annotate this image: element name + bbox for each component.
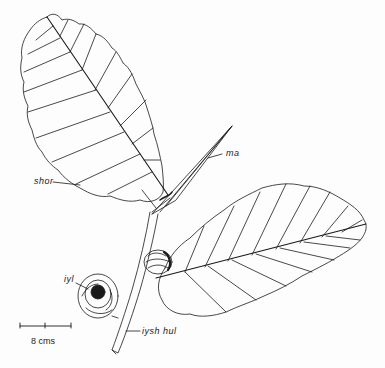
label-shor: shor — [34, 176, 54, 186]
label-ma: ma — [226, 148, 240, 158]
leader-shor — [53, 182, 80, 185]
scale-bar-label: 8 cms — [31, 336, 55, 346]
upper-leaf — [21, 14, 168, 201]
botanical-illustration: ma shor iyl iysh hul 8 cms — [0, 0, 385, 368]
acorn-cup — [78, 274, 118, 318]
lower-leaf — [156, 184, 366, 316]
leader-iyl — [76, 283, 88, 289]
scale-bar — [20, 323, 71, 328]
stipule-bud — [152, 126, 232, 214]
label-iysh-hul: iysh hul — [142, 326, 177, 336]
plant-drawing — [0, 0, 385, 368]
label-iyl: iyl — [64, 274, 74, 284]
